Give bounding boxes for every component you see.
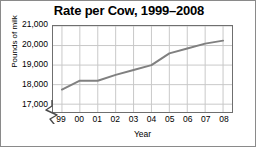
series-line-rate-per-cow <box>62 41 223 90</box>
x-axis-tick-label: 08 <box>213 114 235 124</box>
y-axis-tick-label: 17,000 <box>1 99 48 109</box>
y-axis-tick-label: 20,000 <box>1 39 48 49</box>
x-axis-title: Year <box>52 129 233 139</box>
y-axis-tick-label: 18,000 <box>1 79 48 89</box>
x-axis-tick-labels: 99000102030405060708 <box>52 114 233 126</box>
y-axis-tick-label: 21,000 <box>1 19 48 29</box>
y-axis-tick-label: 19,000 <box>1 59 48 69</box>
chart-title: Rate per Cow, 1999–2008 <box>1 3 256 18</box>
data-series-line <box>53 26 232 112</box>
plot-area <box>52 25 233 113</box>
chart-figure: Rate per Cow, 1999–2008 Pounds of milk 1… <box>0 0 256 147</box>
